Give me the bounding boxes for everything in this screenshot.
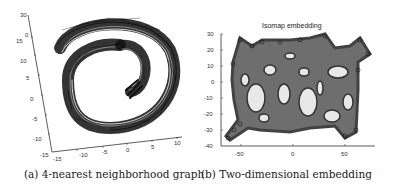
panel-b-isomap-embedding: Isomap embedding 30 20 10 0 -10 -20 -30 …: [200, 0, 396, 195]
x-tick: -50: [235, 151, 244, 157]
x-tick: 50: [341, 151, 348, 157]
z-tick: 0: [30, 96, 34, 102]
caption-b: (b) Two-dimensional embedding: [201, 168, 372, 180]
z-top-label-30: 30: [20, 12, 27, 18]
z-tick: 5: [26, 75, 30, 81]
x-tick: 5: [151, 144, 155, 150]
embedding-points: [226, 34, 370, 140]
z-tick: -5: [32, 116, 38, 122]
y-tick: 20: [207, 47, 214, 53]
z-tick: 15: [16, 38, 23, 44]
x-tick: -10: [79, 152, 88, 158]
y-tick: -10: [204, 95, 213, 101]
x-tick: 0: [126, 147, 130, 153]
caption-a: (a) 4-nearest neighborhood graph: [24, 168, 204, 180]
x-tick: -5: [102, 149, 108, 155]
z-top-label-0: 0: [25, 32, 29, 38]
swiss-roll-graph-plot: 30 0 15 10 5 0 -5 -10 -15 -15 -10 -5 0 5…: [0, 0, 200, 170]
panel-a-neighborhood-graph: 30 0 15 10 5 0 -5 -10 -15 -15 -10 -5 0 5…: [0, 0, 200, 195]
z-tick: 10: [20, 58, 27, 64]
x-tick: 0: [291, 151, 295, 157]
y-tick: -30: [204, 127, 213, 133]
y-tick: -40: [204, 143, 213, 149]
spiral-edges: [58, 22, 176, 130]
isomap-embedding-plot: Isomap embedding 30 20 10 0 -10 -20 -30 …: [200, 0, 396, 170]
y-tick: 0: [211, 79, 215, 85]
plot-title: Isomap embedding: [262, 22, 322, 30]
y-tick: -20: [204, 111, 213, 117]
z-tick: -15: [40, 152, 49, 158]
y-tick: 10: [207, 63, 214, 69]
x-tick: 10: [174, 140, 181, 146]
x-tick: -15: [53, 156, 62, 162]
z-tick: -10: [33, 136, 42, 142]
y-tick: 30: [207, 31, 214, 37]
